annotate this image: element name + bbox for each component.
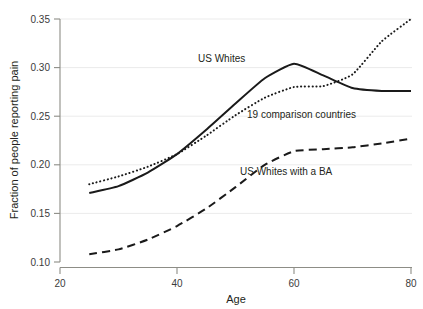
x-tick-label-20: 20 xyxy=(54,278,66,289)
x-tick-label-60: 60 xyxy=(288,278,300,289)
y-axis-title: Fraction of people reporting pain xyxy=(8,61,20,219)
y-tick-label-0-35: 0.35 xyxy=(31,14,51,25)
y-tick-label-0-10: 0.10 xyxy=(31,257,51,268)
series-annotation-comparison-countries: 19 comparison countries xyxy=(247,109,356,120)
y-tick-label-0-15: 0.15 xyxy=(31,208,51,219)
line-chart: 0.35 0.30 0.25 0.20 0.15 0.10 20 40 60 8… xyxy=(0,0,423,309)
series-annotation-us-whites-ba: US Whites with a BA xyxy=(240,166,333,177)
x-tick-label-80: 80 xyxy=(405,278,417,289)
y-tick-label-0-30: 0.30 xyxy=(31,62,51,73)
chart-figure: 0.35 0.30 0.25 0.20 0.15 0.10 20 40 60 8… xyxy=(0,0,423,309)
series-annotation-us-whites: US Whites xyxy=(198,53,245,64)
x-tickmarks xyxy=(60,268,411,275)
x-tick-label-40: 40 xyxy=(171,278,183,289)
y-tick-label-0-25: 0.25 xyxy=(31,111,51,122)
y-tick-label-0-20: 0.20 xyxy=(31,159,51,170)
plot-background xyxy=(60,12,412,268)
x-axis-title: Age xyxy=(226,293,246,305)
y-tickmarks xyxy=(54,19,60,262)
